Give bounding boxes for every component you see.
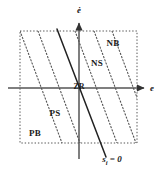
horizontal-axis-label: e [150, 84, 154, 93]
sliding-surface-label: si = 0 [102, 155, 121, 166]
boundary-line-4 [94, 31, 136, 143]
region-label-nb: NB [107, 39, 120, 48]
region-label-pb: PB [29, 129, 41, 138]
vertical-axis-label: ė [77, 6, 81, 15]
origin-label-zr: ZR [73, 83, 84, 91]
fuzzy-boundary-lines [20, 31, 154, 143]
region-label-ps: PS [50, 109, 61, 118]
region-label-ns: NS [91, 59, 103, 68]
boundary-line-5 [112, 31, 154, 143]
boundary-line-1 [20, 31, 62, 143]
fuzzy-sliding-mode-phase-plane-figure: ė e ZR NB NS PS PB si = 0 [0, 0, 160, 173]
sliding-surface-equals: = 0 [108, 154, 122, 164]
